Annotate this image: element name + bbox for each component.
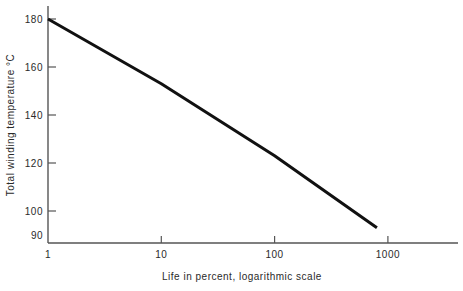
y-axis-label: Total winding temperature °C — [5, 54, 16, 197]
y-tick-label: 90 — [31, 230, 43, 241]
chart-figure: 90100120140160180 1101001000 Total windi… — [0, 0, 463, 291]
y-tick-label: 140 — [25, 110, 43, 121]
x-tick-label: 100 — [266, 249, 284, 260]
y-tick-label: 100 — [25, 206, 43, 217]
y-axis-ticks: 90100120140160180 — [25, 14, 56, 241]
y-tick-label: 180 — [25, 14, 43, 25]
x-tick-label: 1 — [45, 249, 51, 260]
y-tick-label: 160 — [25, 62, 43, 73]
x-tick-label: 1000 — [376, 249, 400, 260]
data-line — [48, 19, 377, 228]
x-tick-label: 10 — [155, 249, 167, 260]
x-axis-ticks: 1101001000 — [45, 236, 400, 260]
data-series-group — [48, 19, 377, 228]
x-axis-label: Life in percent, logarithmic scale — [162, 271, 322, 282]
y-tick-label: 120 — [25, 158, 43, 169]
chart-plot-area: 90100120140160180 1101001000 Total windi… — [0, 0, 463, 291]
axis-lines — [48, 6, 458, 243]
